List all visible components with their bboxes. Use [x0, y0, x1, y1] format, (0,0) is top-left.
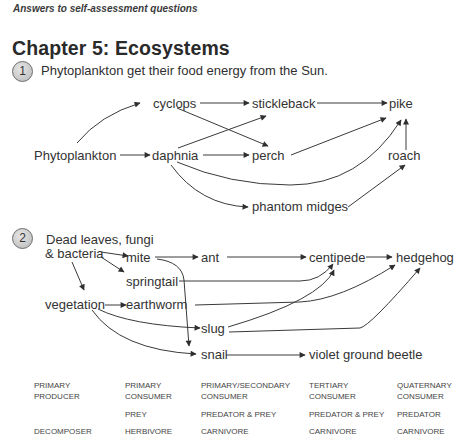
- node-slug: slug: [201, 321, 225, 336]
- legend-cell: CONSUMER: [201, 392, 290, 403]
- legend-col-3-diet: CARNIVORE: [309, 427, 357, 438]
- legend-col-1-role: PREY: [125, 410, 147, 421]
- node-hedgehog: hedgehog: [396, 250, 454, 265]
- legend-col-0-level: PRIMARY PRODUCER: [34, 381, 80, 402]
- legend-col-2-role: PREDATOR & PREY: [201, 410, 276, 421]
- node-daphnia: daphnia: [152, 148, 199, 163]
- food-web-2-nodes: Dead leaves, fungi & bacteria vegetation…: [45, 232, 454, 362]
- legend-cell: QUATERNARY: [397, 381, 452, 392]
- node-earthworm: earthworm: [126, 297, 187, 312]
- legend-cell: TERTIARY: [309, 381, 356, 392]
- node-violet-ground-beetle: violet ground beetle: [309, 347, 422, 362]
- legend-col-1-diet: HERBIVORE: [125, 427, 172, 438]
- legend-col-1-level: PRIMARY CONSUMER: [125, 381, 172, 402]
- node-springtail: springtail: [126, 274, 178, 289]
- legend-cell: PRIMARY: [34, 381, 80, 392]
- node-ant: ant: [201, 250, 219, 265]
- node-phantom-midges: phantom midges: [252, 199, 349, 214]
- node-cyclops: cyclops: [153, 96, 197, 111]
- legend-col-2-diet: CARNIVORE: [201, 427, 249, 438]
- node-vegetation: vegetation: [45, 297, 105, 312]
- node-dead-leaves-line2: & bacteria: [45, 246, 104, 261]
- legend-col-4-diet: CARNIVORE: [397, 427, 445, 438]
- legend-cell: CONSUMER: [125, 392, 172, 403]
- legend-col-3-level: TERTIARY CONSUMER: [309, 381, 356, 402]
- legend-col-4-role: PREDATOR: [397, 410, 441, 421]
- node-centipede: centipede: [309, 250, 365, 265]
- legend-cell: PRIMARY/SECONDARY: [201, 381, 290, 392]
- legend-cell: PRIMARY: [125, 381, 172, 392]
- legend-col-0-diet: DECOMPOSER: [34, 427, 92, 438]
- legend-col-3-role: PREDATOR & PREY: [309, 410, 384, 421]
- node-mite: mite: [126, 250, 151, 265]
- food-web-2-arrows: [72, 252, 420, 355]
- legend-cell: CONSUMER: [397, 392, 452, 403]
- node-stickleback: stickleback: [252, 96, 316, 111]
- node-snail: snail: [201, 347, 228, 362]
- legend-col-2-level: PRIMARY/SECONDARY CONSUMER: [201, 381, 290, 402]
- food-web-1-arrows: [77, 103, 406, 207]
- node-pike: pike: [389, 96, 413, 111]
- legend-col-4-level: QUATERNARY CONSUMER: [397, 381, 452, 402]
- node-dead-leaves-line1: Dead leaves, fungi: [46, 232, 154, 247]
- legend-cell: CONSUMER: [309, 392, 356, 403]
- legend-cell: PRODUCER: [34, 392, 80, 403]
- node-roach: roach: [388, 148, 421, 163]
- node-phytoplankton: Phytoplankton: [34, 148, 116, 163]
- node-perch: perch: [252, 148, 285, 163]
